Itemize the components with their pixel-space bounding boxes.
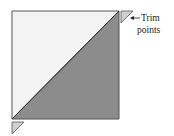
trim-label-line1: Trim <box>141 13 160 23</box>
arrow-head-icon <box>130 16 134 20</box>
trim-point-top-right <box>121 11 133 23</box>
trim-label-line2: points <box>137 25 160 35</box>
trim-point-bottom-left <box>12 122 24 134</box>
